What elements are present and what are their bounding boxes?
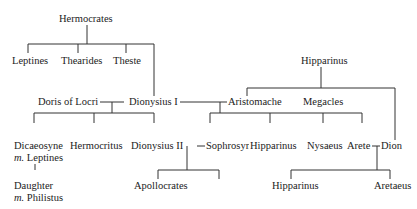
node-hermocrates: Hermocrates [58,13,114,25]
dicaeosyne-name: Dicaeosyne [14,140,63,151]
node-hermocritus: Hermocritus [69,140,124,152]
node-daughter: Daughter m. Philistus [13,180,64,204]
node-dionysius-ii: Dionysius II [130,140,184,152]
node-thearides: Thearides [60,55,103,67]
node-nysaeus: Nysaeus [306,140,344,152]
node-hipparinus-grandson: Hipparinus [271,180,320,192]
node-aretaeus: Aretaeus [373,180,412,192]
daughter-name: Daughter [14,180,53,191]
married-prefix: m. [14,192,24,203]
node-dicaeosyne: Dicaeosyne m. Leptines [13,140,64,164]
family-tree-diagram: Hermocrates Leptines Thearides Theste Hi… [0,0,417,209]
node-theste: Theste [112,55,142,67]
daughter-spouse: Philistus [27,192,63,203]
node-doris-of-locri: Doris of Locri [37,96,99,108]
node-megacles: Megacles [302,96,344,108]
node-hipparinus-son: Hipparinus [249,140,298,152]
node-leptines: Leptines [11,55,49,67]
node-dion: Dion [380,140,403,152]
node-aristomache: Aristomache [227,96,283,108]
dicaeosyne-spouse: Leptines [27,152,63,163]
married-prefix: m. [14,152,24,163]
node-dionysius-i: Dionysius I [128,96,179,108]
node-apollocrates: Apollocrates [133,180,189,192]
node-hipparinus-elder: Hipparinus [300,55,349,67]
node-arete: Arete [346,140,371,152]
